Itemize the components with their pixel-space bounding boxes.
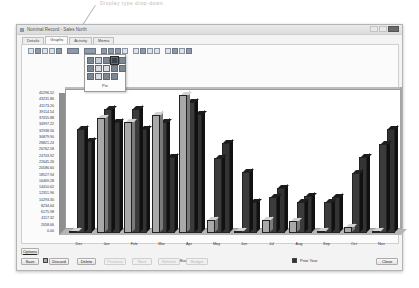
scatter-chart-icon[interactable]	[95, 65, 102, 72]
bar-actuals-oct[interactable]	[344, 227, 352, 233]
y-tick-label: 2058.66	[41, 223, 54, 227]
axis-icon[interactable]	[147, 48, 153, 54]
y-tick-label: 24703.92	[39, 154, 54, 158]
x-tick-label: Jan	[103, 242, 109, 246]
legend-icon[interactable]	[133, 48, 139, 54]
x-tick-label: Dec	[76, 242, 83, 246]
x-tick-label: Nov	[378, 242, 385, 246]
tab-strip: Details Graphs Activity Memo	[22, 37, 115, 44]
budget-button[interactable]: Budget	[186, 258, 208, 265]
table-icon[interactable]	[140, 48, 146, 54]
bar-actuals-may[interactable]	[207, 220, 215, 233]
bar-actuals-jun[interactable]	[234, 231, 242, 233]
y-tick-label: 30879.90	[39, 135, 54, 139]
legend-prior-year: Prior Year	[292, 258, 318, 263]
maximize-button[interactable]	[379, 26, 387, 32]
y-tick-label: 14410.62	[39, 185, 54, 189]
previous-button[interactable]: Previous	[104, 258, 126, 265]
y-tick-label: 10293.30	[39, 198, 54, 202]
month-group-jul	[262, 93, 290, 233]
title-icon[interactable]	[165, 48, 171, 54]
bar-chart-icon[interactable]	[87, 57, 94, 64]
step-line-chart-icon[interactable]	[95, 73, 102, 80]
discard-button[interactable]: Discard	[49, 258, 69, 265]
legend-swatch-prior-year	[292, 258, 297, 263]
month-group-jan	[97, 93, 125, 233]
x-tick-label: Mar	[158, 242, 165, 246]
refresh-button[interactable]: Refresh	[158, 258, 180, 265]
gantt-chart-icon[interactable]	[87, 73, 94, 80]
bar-actuals-jan[interactable]	[97, 118, 105, 233]
font-icon[interactable]	[172, 48, 178, 54]
step-chart-icon[interactable]	[103, 65, 110, 72]
x-tick-label: Oct	[351, 242, 357, 246]
tab-activity[interactable]: Activity	[69, 37, 92, 44]
bar-budgets-jun[interactable]	[242, 172, 250, 233]
window-controls	[369, 26, 399, 33]
bar-actuals-dec[interactable]	[69, 231, 77, 233]
bar-actuals-nov[interactable]	[372, 231, 380, 233]
tab-details[interactable]: Details	[22, 37, 44, 44]
bar-actuals-mar[interactable]	[152, 115, 160, 233]
cut-icon[interactable]	[49, 48, 55, 54]
line-chart-icon[interactable]	[95, 57, 102, 64]
close-window-button[interactable]	[388, 26, 399, 32]
y-tick-label: 32938.56	[39, 129, 54, 133]
tab-graphs[interactable]: Graphs	[45, 36, 68, 44]
chart-type-grid	[85, 55, 125, 82]
legend-swatch-actuals	[43, 258, 48, 263]
bar-actuals-jul[interactable]	[262, 220, 270, 233]
y-tick-label: 26762.58	[39, 147, 54, 151]
polar-chart-icon[interactable]	[111, 73, 118, 80]
label-icon[interactable]	[154, 48, 160, 54]
nominal-record-window: Nominal Record - Sales North Details Gra…	[16, 24, 403, 271]
bar-budgets-nov[interactable]	[379, 144, 387, 233]
y-tick-label: 28821.24	[39, 141, 54, 145]
month-group-may	[207, 93, 235, 233]
next-button[interactable]: Next	[132, 258, 152, 265]
filter-icon[interactable]	[179, 48, 185, 54]
copy-icon[interactable]	[42, 48, 48, 54]
legend-label-prior-year: Prior Year	[300, 258, 318, 263]
x-tick-label: Jul	[269, 242, 274, 246]
chart-type-dropdown[interactable]	[67, 48, 79, 54]
bar-actuals-aug[interactable]	[289, 221, 297, 233]
pie-chart-icon[interactable]	[111, 57, 118, 64]
print-icon[interactable]	[28, 48, 34, 54]
bar-budgets-dec[interactable]	[77, 129, 85, 233]
save-icon[interactable]	[35, 48, 41, 54]
delete-button[interactable]: Delete	[77, 258, 96, 265]
bar-actuals-sep[interactable]	[317, 231, 325, 233]
y-tick-label: 16469.28	[39, 179, 54, 183]
stacked-bar-chart-icon[interactable]	[87, 65, 94, 72]
properties-icon[interactable]	[186, 48, 192, 54]
bar-actuals-feb[interactable]	[124, 122, 132, 233]
bar-actuals-apr[interactable]	[179, 95, 187, 233]
doughnut-chart-icon[interactable]	[111, 65, 118, 72]
month-group-feb	[124, 93, 152, 233]
hovered-chart-type-label: Pie	[85, 83, 125, 88]
y-tick-label: 39114.54	[39, 110, 54, 114]
tab-memo[interactable]: Memo	[93, 37, 114, 44]
app-icon	[20, 28, 24, 32]
3d-bar-chart-icon[interactable]	[119, 57, 126, 64]
y-tick-label: 20586.60	[39, 166, 54, 170]
x-tick-label: Feb	[131, 242, 138, 246]
save-button[interactable]: Save	[21, 258, 39, 265]
export-icon[interactable]	[56, 48, 62, 54]
column-chart-icon[interactable]	[119, 65, 126, 72]
month-group-dec	[69, 93, 97, 233]
y-tick-label: 22645.26	[39, 160, 54, 164]
title-bar: Nominal Record - Sales North	[17, 25, 402, 35]
minimize-button[interactable]	[370, 26, 378, 32]
x-tick-label: Aug	[296, 242, 303, 246]
callout-label: Display type drop-down	[100, 0, 163, 6]
x-tick-label: Jun	[241, 242, 247, 246]
graphs-panel: 45296.5243231.8641173.2039114.5437055.88…	[21, 44, 399, 244]
close-button[interactable]: Close	[376, 258, 398, 265]
window-title: Nominal Record - Sales North	[27, 27, 87, 32]
area-chart-icon[interactable]	[103, 57, 110, 64]
x-tick-label: Apr	[186, 242, 192, 246]
options-button[interactable]: Options	[21, 248, 39, 255]
hilo-chart-icon[interactable]	[103, 73, 110, 80]
